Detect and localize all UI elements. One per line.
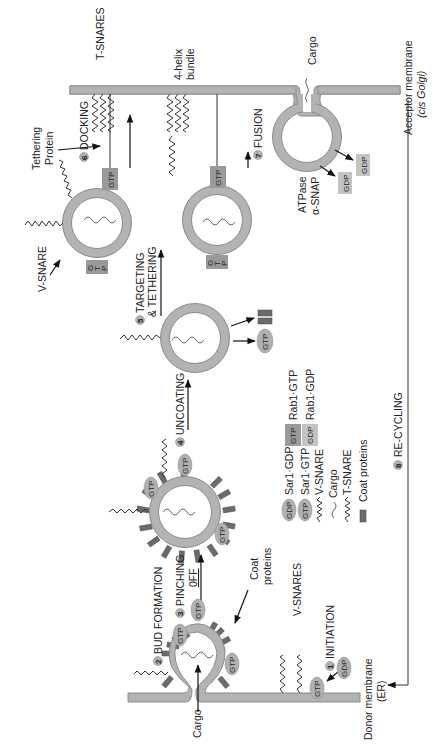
svg-text:GDP: GDP (340, 660, 349, 677)
svg-text:P: P (220, 261, 229, 266)
svg-text:DOCKING: DOCKING (78, 101, 90, 150)
svg-text:Cargo: Cargo (327, 469, 339, 498)
docked-vesicle: GTP G T P (183, 94, 252, 269)
t-snares-label: T-SNARES (94, 7, 106, 60)
svg-text:Rab1·GTP: Rab1·GTP (287, 370, 299, 420)
svg-text:BUD FORMATION: BUD FORMATION (152, 567, 164, 654)
helix-bundle-label-1: 4-helix (172, 48, 184, 80)
svg-text:GTP: GTP (214, 170, 223, 186)
four-helix-bundle (167, 94, 189, 176)
svg-text:P: P (100, 266, 109, 271)
legend-item-rab1-gtp: GTP Rab1·GTP (285, 370, 301, 446)
svg-text:ATPase: ATPase (296, 176, 308, 213)
svg-text:GTP: GTP (147, 481, 156, 497)
svg-text:V-SNARES: V-SNARES (291, 563, 303, 616)
v-snares-on-donor: V-SNARES (280, 563, 303, 693)
svg-text:Cargo: Cargo (191, 709, 203, 738)
svg-text:Coat proteins: Coat proteins (357, 440, 369, 502)
svg-text:3: 3 (176, 611, 185, 616)
svg-text:GTP: GTP (181, 458, 190, 474)
svg-text:Sar1·GDP: Sar1·GDP (283, 447, 295, 495)
svg-text:GTP: GTP (194, 603, 203, 619)
svg-text:GTP: GTP (218, 527, 227, 543)
svg-text:(cis Golgi): (cis Golgi) (415, 71, 427, 118)
svg-text:GTP: GTP (107, 172, 116, 188)
acceptor-membrane-label: Acceptor membrane (cis Golgi) (402, 40, 427, 135)
donor-membrane-label: Donor membrane (ER) (362, 658, 387, 740)
svg-text:proteins: proteins (261, 548, 273, 585)
legend: GDP Sar1·GDP GTP Sar1·GTP V-SNARE Cargo … (282, 369, 369, 522)
svg-text:4: 4 (176, 440, 185, 445)
svg-text:2: 2 (154, 659, 163, 664)
legend-item-cargo: Cargo (327, 469, 339, 518)
svg-text:0FF: 0FF (187, 568, 199, 587)
svg-text:Cargo: Cargo (306, 36, 318, 65)
svg-text:INITIATION: INITIATION (324, 605, 336, 659)
svg-text:Sar1·GTP: Sar1·GTP (299, 448, 311, 495)
svg-text:GTP: GTP (228, 657, 237, 673)
svg-text:8: 8 (394, 463, 403, 468)
svg-text:GTP: GTP (313, 681, 322, 697)
svg-text:GTP: GTP (176, 628, 185, 644)
svg-text:GTP: GTP (301, 503, 310, 519)
svg-text:V-SNARE: V-SNARE (36, 246, 48, 292)
step-2-bud-formation: 2 BUD FORMATION (152, 567, 164, 666)
svg-text:T-SNARE: T-SNARE (341, 449, 353, 495)
svg-text:V-SNARE: V-SNARE (313, 449, 325, 495)
svg-text:Tethering: Tethering (30, 127, 42, 170)
step-7-fusion: 7 FUSION (248, 108, 264, 168)
svg-text:& TETHERING: & TETHERING (146, 247, 158, 317)
cargo-top-label: Cargo (306, 36, 318, 65)
svg-text:Coat: Coat (248, 558, 260, 580)
svg-text:Rab1·GDP: Rab1·GDP (304, 369, 316, 420)
svg-text:GTP: GTP (261, 334, 270, 350)
svg-text:1: 1 (326, 664, 335, 669)
svg-text:6: 6 (80, 155, 89, 160)
svg-text:PINCHING: PINCHING (174, 555, 186, 606)
legend-item-rab1-gdp: GDP Rab1·GDP (302, 369, 318, 446)
svg-text:(ER): (ER) (375, 680, 387, 702)
svg-text:TARGETING: TARGETING (134, 253, 146, 313)
svg-text:Protein: Protein (43, 132, 55, 165)
acceptor-membrane (70, 86, 400, 116)
step-4-uncoating: 4 UNCOATING (174, 373, 188, 447)
coated-vesicle: GTP GTP GTP (109, 439, 235, 563)
legend-item-sar1-gdp: GDP Sar1·GDP (282, 447, 296, 521)
step-1-initiation: GTP 1 INITIATION GDP (310, 605, 351, 699)
svg-text:α-SNAP: α-SNAP (309, 177, 321, 215)
step-8-recycling: 8 RE-CYCLING (388, 100, 408, 685)
svg-text:5: 5 (136, 318, 145, 323)
svg-text:UNCOATING: UNCOATING (174, 373, 186, 435)
t-snare-zigzags-docking (92, 94, 114, 132)
helix-bundle-label-2: bundle (184, 48, 196, 80)
svg-text:GDP: GDP (306, 427, 315, 444)
legend-item-coat-proteins: Coat proteins (357, 440, 369, 522)
vesicle-transport-diagram: Acceptor membrane (cis Golgi) T-SNARES 4… (0, 0, 437, 746)
coat-proteins-label: Coat proteins (235, 548, 273, 623)
step-5-targeting-tethering: 5 TARGETING & TETHERING (134, 247, 161, 325)
legend-item-t-snare: T-SNARE (341, 449, 353, 522)
svg-text:GDP: GDP (360, 157, 369, 174)
legend-item-sar1-gtp: GTP Sar1·GTP (298, 448, 312, 521)
svg-text:GTP: GTP (289, 428, 298, 444)
legend-item-v-snare: V-SNARE (313, 449, 325, 522)
svg-text:FUSION: FUSION (252, 108, 264, 148)
svg-text:Donor membrane: Donor membrane (362, 658, 374, 740)
svg-text:7: 7 (254, 153, 263, 158)
v-snare-label: V-SNARE (36, 246, 60, 292)
svg-text:RE-CYCLING: RE-CYCLING (392, 392, 404, 457)
svg-text:GDP: GDP (342, 175, 351, 192)
svg-text:GDP: GDP (285, 502, 294, 519)
